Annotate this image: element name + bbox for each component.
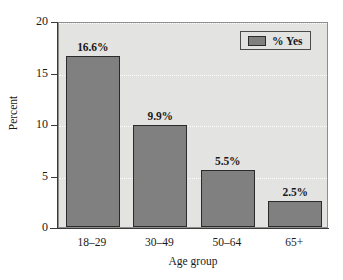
x-axis-line [50, 228, 329, 229]
y-tick-mark [51, 125, 58, 126]
y-tick-mark [51, 22, 58, 23]
y-tick-mark [51, 228, 58, 229]
y-tick-label: 5 [8, 169, 48, 184]
y-tick-mark [51, 177, 58, 178]
legend-label-yes: % Yes [272, 35, 303, 47]
y-tick-mark [51, 74, 58, 75]
legend: % Yes [240, 31, 311, 50]
y-tick-label: 0 [8, 220, 48, 235]
y-axis-title: Percent [7, 78, 19, 148]
bar [268, 201, 322, 227]
bar-value-label: 16.6% [53, 41, 133, 53]
x-tick-label: 65+ [254, 236, 334, 248]
legend-swatch-yes [248, 36, 266, 46]
x-axis-title: Age group [58, 255, 328, 267]
bar-value-label: 5.5% [188, 155, 268, 167]
plot-area: 16.6%9.9%5.5%2.5% [58, 22, 328, 228]
bars-group: 16.6%9.9%5.5%2.5% [59, 23, 327, 227]
bar-value-label: 9.9% [120, 110, 200, 122]
bar-value-label: 2.5% [255, 186, 335, 198]
bar [133, 125, 187, 227]
bar [201, 170, 255, 227]
bar [66, 56, 120, 227]
y-tick-label: 20 [8, 14, 48, 29]
bar-chart-figure: 16.6%9.9%5.5%2.5% 05101520 18–2930–4950–… [0, 0, 343, 280]
